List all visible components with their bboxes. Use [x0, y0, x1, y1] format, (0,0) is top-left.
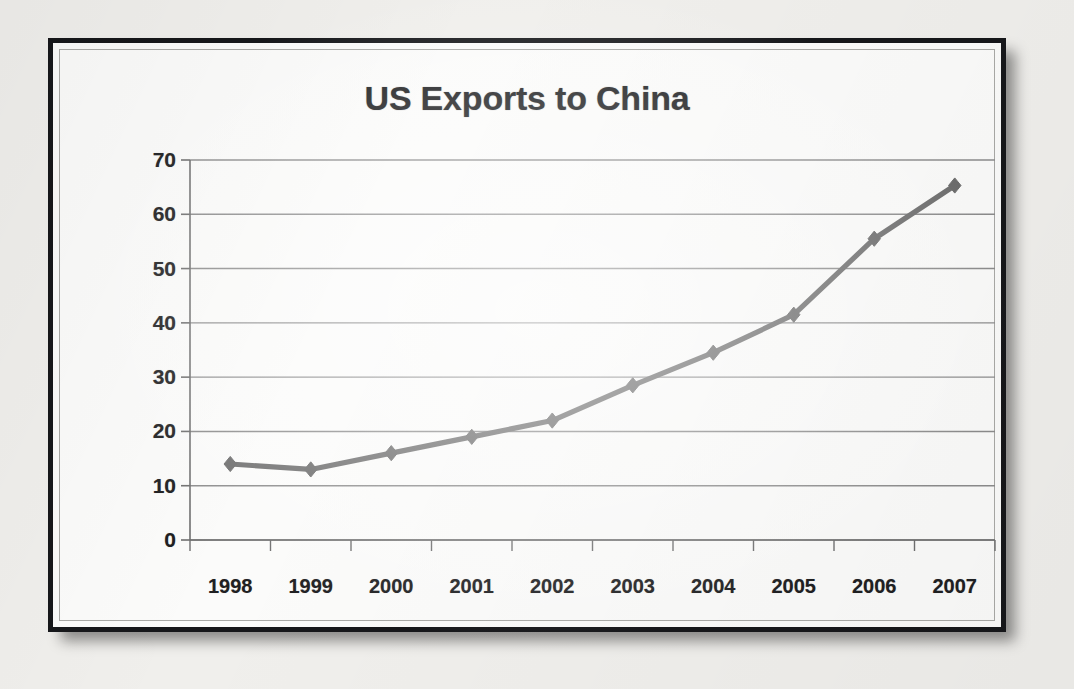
x-axis-tick-label: 2001 [427, 575, 517, 598]
y-axis-tick-label: 40 [130, 311, 176, 335]
data-point-marker-1999 [305, 462, 317, 477]
x-axis-tick-label: 2002 [507, 575, 597, 598]
x-axis-tick-label: 2005 [749, 575, 839, 598]
y-axis-tick-labels: 010203040506070 [120, 160, 176, 540]
line-chart-svg [190, 160, 995, 540]
y-axis-tick-label: 70 [130, 148, 176, 172]
chart-title: US Exports to China [53, 79, 1001, 118]
x-axis-tick-label: 2000 [346, 575, 436, 598]
x-axis-tick-labels: 1998199920002001200220032004200520062007 [190, 575, 995, 609]
data-point-markers [224, 178, 961, 477]
axis-lines [181, 160, 995, 540]
y-axis-tick-label: 20 [130, 419, 176, 443]
data-series-line [230, 186, 955, 470]
x-axis-tick-label: 2007 [910, 575, 1000, 598]
x-axis-tick-label: 2006 [829, 575, 919, 598]
x-axis-tick-label: 1999 [266, 575, 356, 598]
x-axis-tick-label: 1998 [185, 575, 275, 598]
y-axis-tick-label: 0 [130, 528, 176, 552]
y-axis-tick-label: 10 [130, 474, 176, 498]
x-axis-tick-label: 2004 [668, 575, 758, 598]
y-axis-tick-label: 30 [130, 365, 176, 389]
data-point-marker-1998 [224, 456, 236, 471]
data-point-marker-2003 [627, 378, 639, 393]
y-axis-tick-label: 60 [130, 202, 176, 226]
gridlines [190, 160, 995, 540]
plot-area [190, 160, 995, 540]
data-point-marker-2002 [546, 413, 558, 428]
series-line [230, 186, 955, 470]
x-axis-tick-label: 2003 [588, 575, 678, 598]
data-point-marker-2004 [707, 345, 719, 360]
data-point-marker-2000 [385, 446, 397, 461]
chart-card: US Exports to China 010203040506070 1998… [48, 38, 1006, 632]
x-axis-tick-marks [190, 540, 995, 551]
y-axis-tick-label: 50 [130, 257, 176, 281]
